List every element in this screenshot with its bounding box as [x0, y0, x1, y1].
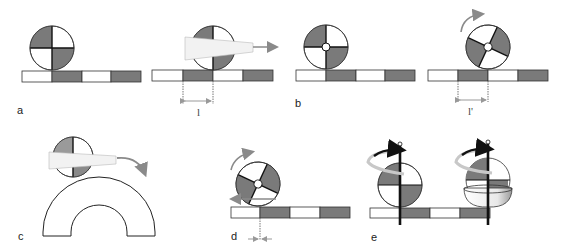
panel-label-d: d [231, 230, 237, 242]
figure-canvas: a l [0, 0, 563, 248]
striped-bar [231, 207, 350, 218]
striped-bar [152, 70, 273, 81]
panel-label-a: a [17, 104, 24, 116]
panel-a-translated: l [152, 26, 276, 118]
measure-label-l: l [197, 106, 200, 118]
hub-wheel [304, 25, 348, 69]
cone-pointer [49, 152, 116, 169]
rotated-hub-wheel [459, 18, 517, 76]
displacement-marker [458, 81, 488, 102]
panel-e: e [368, 140, 512, 243]
striped-bar [428, 70, 548, 81]
striped-bar [22, 71, 141, 82]
striped-bar [296, 70, 415, 81]
measure-label-l-prime: l' [468, 105, 473, 117]
striped-bar [370, 208, 490, 218]
displacement-marker [183, 81, 213, 104]
figure-svg: a l [0, 0, 563, 248]
panel-d: d [229, 152, 350, 242]
panel-b-rotated: l' [428, 14, 548, 117]
panel-c: c [18, 137, 155, 242]
curved-arrow-icon [117, 158, 145, 174]
panel-label-b: b [295, 97, 301, 109]
panel-label-e: e [371, 231, 377, 243]
panel-label-c: c [18, 230, 24, 242]
rotated-hub-wheel [229, 155, 287, 213]
quartered-wheel [30, 26, 74, 70]
panel-b: b [295, 25, 415, 109]
arch [43, 177, 155, 236]
panel-a: a [17, 26, 141, 116]
